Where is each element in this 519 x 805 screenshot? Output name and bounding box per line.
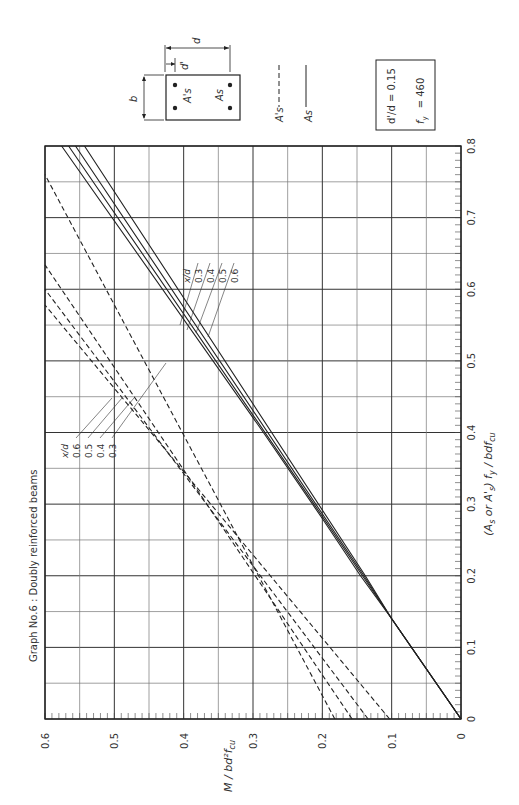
y-axis-label: M / bd²fcu	[222, 740, 237, 792]
solid-curve-labels: x/d0.30.40.50.6	[180, 263, 240, 337]
svg-text:0.5: 0.5	[84, 444, 94, 458]
legend-tension-label: As	[303, 110, 314, 123]
svg-text:0.4: 0.4	[466, 425, 477, 441]
param-dprime-ratio: d'/d = 0.15	[386, 68, 397, 124]
param-fy: fy= 460	[415, 78, 429, 124]
svg-text:x/d: x/d	[60, 444, 70, 459]
svg-text:0.3: 0.3	[248, 733, 259, 749]
svg-text:0.3: 0.3	[466, 496, 477, 512]
svg-text:0.6: 0.6	[72, 443, 82, 458]
svg-text:0.2: 0.2	[466, 568, 477, 584]
svg-text:0.5: 0.5	[109, 733, 120, 749]
beam-section-diagram: A's As b d d'	[128, 37, 240, 120]
svg-text:A's: A's	[182, 88, 193, 104]
svg-text:x/d: x/d	[182, 269, 192, 284]
svg-text:0.2: 0.2	[317, 733, 328, 749]
svg-text:d: d	[191, 37, 202, 44]
grid	[45, 146, 461, 719]
svg-text:0.4: 0.4	[96, 443, 106, 458]
chart: 00.10.20.30.40.50.60.70.800.10.20.30.40.…	[0, 0, 519, 805]
svg-text:As: As	[214, 89, 225, 102]
svg-text:0.5: 0.5	[218, 269, 228, 283]
svg-text:0: 0	[456, 733, 467, 739]
svg-text:0.4: 0.4	[179, 733, 190, 749]
svg-text:0.7: 0.7	[466, 210, 477, 226]
svg-text:b: b	[128, 96, 139, 102]
tick-labels: 00.10.20.30.40.50.60.70.800.10.20.30.40.…	[40, 138, 477, 749]
svg-text:d': d'	[179, 61, 190, 70]
svg-text:0.8: 0.8	[466, 138, 477, 154]
legend-compression-label: A's	[274, 107, 285, 123]
svg-text:0.3: 0.3	[108, 444, 118, 458]
svg-text:0.6: 0.6	[40, 733, 51, 749]
dashed-curve-labels: x/d0.60.50.40.3	[60, 363, 166, 459]
svg-text:0.1: 0.1	[466, 639, 477, 655]
svg-text:0.5: 0.5	[466, 353, 477, 369]
chart-title: Graph No.6 : Doubly reinforced beams	[28, 470, 39, 662]
x-axis-label: (As or A's) fy / bdfcu	[482, 432, 497, 535]
legend: A's As	[274, 65, 314, 123]
parameters-box: d'/d = 0.15 fy= 460	[376, 60, 435, 130]
svg-text:0: 0	[466, 716, 477, 722]
svg-text:0.1: 0.1	[387, 733, 398, 749]
svg-text:0.6: 0.6	[466, 281, 477, 297]
